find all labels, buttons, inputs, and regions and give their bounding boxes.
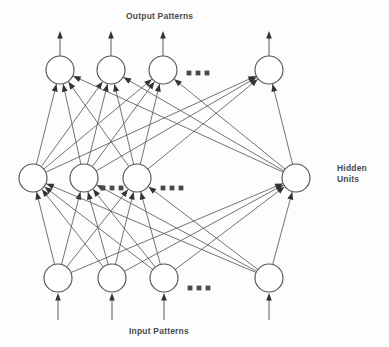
hidden-ellipsis-dot: [170, 186, 175, 191]
connection-line: [45, 187, 153, 270]
hidden-ellipsis-dot: [101, 186, 106, 191]
connection-arrowhead: [93, 189, 100, 197]
connection-line: [273, 84, 293, 164]
input-ellipsis-dot: [188, 286, 193, 291]
connection-line: [148, 79, 258, 169]
io-arrowhead: [160, 31, 166, 39]
connection-arrowhead: [121, 189, 128, 197]
connection-line: [140, 84, 159, 164]
connection-arrowhead: [155, 84, 161, 92]
output-ellipsis-dot: [196, 71, 201, 76]
connection-line: [73, 76, 283, 172]
connection-line: [46, 76, 256, 172]
output-ellipsis-dot: [187, 71, 192, 76]
connection-arrowhead: [174, 79, 182, 86]
output-patterns-label: Output Patterns: [126, 11, 193, 22]
network-canvas: [0, 0, 389, 347]
io-arrowhead: [55, 293, 61, 301]
connection-arrowhead: [271, 84, 277, 92]
connection-line: [97, 185, 257, 271]
hidden-unit-3: [123, 164, 151, 192]
input-unit-4: [255, 264, 283, 292]
hidden-ellipsis-dot: [119, 186, 124, 191]
connection-arrowhead: [140, 192, 146, 200]
connection-arrowhead: [129, 192, 135, 200]
hidden-units-label: Hidden Units: [337, 163, 367, 185]
connection-arrowhead: [287, 192, 293, 200]
connection-line: [46, 184, 256, 273]
connection-line: [273, 192, 293, 264]
output-unit-3: [149, 56, 177, 84]
io-arrowhead: [266, 31, 272, 39]
connection-line: [96, 77, 256, 171]
connection-arrowhead: [124, 77, 132, 83]
connection-line: [37, 192, 55, 264]
connection-arrowhead: [87, 192, 93, 200]
output-unit-4: [255, 56, 283, 84]
connection-line: [124, 77, 284, 171]
connection-line: [67, 189, 128, 267]
connection-line: [149, 187, 258, 270]
io-arrowhead: [108, 31, 114, 39]
output-unit-1: [46, 56, 74, 84]
connection-arrowhead: [149, 187, 157, 194]
input-ellipsis-dot: [206, 286, 211, 291]
connection-arrowhead: [62, 84, 68, 92]
io-arrowhead: [161, 293, 167, 301]
output-unit-2: [97, 56, 125, 84]
input-unit-3: [150, 264, 178, 292]
connection-line: [68, 82, 128, 167]
connection-arrowhead: [113, 84, 119, 92]
connection-arrowhead: [96, 82, 103, 90]
hidden-ellipsis-dot: [179, 186, 184, 191]
io-arrowhead: [266, 293, 272, 301]
output-ellipsis-dot: [205, 71, 210, 76]
connection-line: [93, 189, 155, 267]
neural-network-diagram: Output Patterns Hidden Units Input Patte…: [0, 0, 389, 347]
io-arrowhead: [109, 293, 115, 301]
input-ellipsis-dot: [197, 286, 202, 291]
hidden-ellipsis-dot: [161, 186, 166, 191]
hidden-ellipsis-dot: [110, 186, 115, 191]
input-unit-2: [98, 264, 126, 292]
hidden-unit-2: [70, 164, 98, 192]
connection-arrowhead: [73, 76, 81, 82]
connection-arrowhead: [68, 82, 75, 90]
hidden-unit-4: [282, 164, 310, 192]
connection-line: [42, 189, 103, 267]
connection-arrowhead: [35, 192, 41, 200]
connection-arrowhead: [52, 84, 58, 92]
connection-line: [87, 84, 107, 164]
input-unit-1: [44, 264, 72, 292]
connection-line: [92, 82, 154, 167]
io-arrowhead: [57, 31, 63, 39]
input-patterns-label: Input Patterns: [129, 326, 189, 337]
connection-line: [36, 84, 56, 164]
hidden-unit-1: [19, 164, 47, 192]
